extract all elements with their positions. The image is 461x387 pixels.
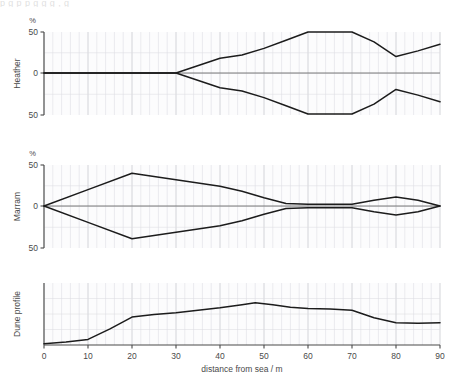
x-tick-label: 20: [127, 351, 137, 361]
x-tick-label: 70: [347, 351, 357, 361]
y-tick-label: 0: [33, 68, 38, 78]
panel-label-heather: Heather: [12, 58, 22, 88]
y-axis-unit-label: %: [29, 16, 36, 25]
kite-diagram-figure: 50050%Heather50050%MarramDune profile010…: [0, 0, 461, 387]
panel-heather: 50050%Heather: [12, 16, 440, 120]
panel-marram: 50050%Marram: [12, 149, 440, 253]
x-tick-label: 40: [215, 351, 225, 361]
x-tick-label: 80: [391, 351, 401, 361]
x-tick-label: 50: [259, 351, 269, 361]
x-tick-label: 90: [435, 351, 445, 361]
x-tick-label: 30: [171, 351, 181, 361]
panel-label-dune-profile: Dune profile: [12, 291, 22, 337]
y-tick-label: 0: [33, 201, 38, 211]
chart-canvas: 50050%Heather50050%MarramDune profile010…: [0, 0, 461, 387]
y-tick-label: 50: [29, 243, 39, 253]
panel-label-marram: Marram: [12, 192, 22, 221]
panel-dune-profile: Dune profile: [12, 283, 440, 345]
y-tick-label: 50: [29, 160, 39, 170]
y-axis-unit-label: %: [29, 149, 36, 158]
x-tick-label: 0: [42, 351, 47, 361]
x-axis: 0102030405060708090distance from sea / m: [42, 345, 445, 374]
y-tick-label: 50: [29, 110, 39, 120]
x-tick-label: 10: [83, 351, 93, 361]
x-axis-title: distance from sea / m: [201, 364, 282, 374]
x-tick-label: 60: [303, 351, 313, 361]
y-tick-label: 50: [29, 27, 39, 37]
